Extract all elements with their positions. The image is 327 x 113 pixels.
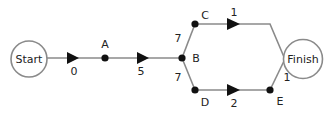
node-label-b: B — [192, 52, 200, 65]
arrow-icon-c-finish — [227, 18, 240, 30]
weight-c-finish: 1 — [231, 6, 238, 19]
finish-label: Finish — [287, 53, 318, 66]
node-label-c: C — [201, 9, 209, 22]
network-diagram: Start Finish A B C D E 0 5 7 7 1 2 1 — [0, 0, 327, 113]
weight-e-finish: 1 — [284, 71, 291, 84]
weight-a-b: 5 — [138, 65, 145, 78]
node-b — [178, 54, 185, 61]
node-label-e: E — [277, 95, 284, 108]
edge-e-finish — [270, 61, 284, 90]
weight-b-d: 7 — [175, 71, 182, 84]
edge-c-finish — [195, 24, 284, 57]
node-label-d: D — [201, 96, 209, 109]
weight-start-a: 0 — [71, 65, 78, 78]
weight-b-c: 7 — [175, 32, 182, 45]
arrow-icon-d-e — [227, 84, 240, 96]
weight-d-e: 2 — [231, 97, 238, 110]
node-label-a: A — [101, 38, 109, 51]
node-c — [191, 20, 198, 27]
arrow-icon-start-a — [67, 52, 79, 64]
node-a — [101, 54, 108, 61]
start-label: Start — [16, 53, 44, 66]
start-terminal: Start — [11, 41, 47, 77]
node-d — [191, 86, 198, 93]
arrow-icon-a-b — [137, 52, 149, 64]
node-e — [266, 86, 273, 93]
